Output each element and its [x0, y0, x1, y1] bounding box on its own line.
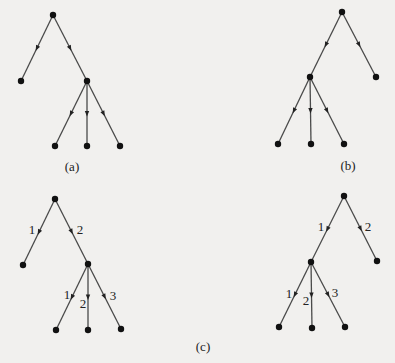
- caption-a: (a): [65, 160, 79, 173]
- arrow-icon: [324, 226, 330, 233]
- arrow-icon: [68, 228, 74, 235]
- arrow-icon: [356, 41, 362, 48]
- tree-node: [342, 324, 348, 330]
- arrow-icon: [308, 108, 312, 114]
- arrow-icon: [325, 291, 331, 298]
- tree-c-left: [20, 196, 124, 333]
- arrow-icon: [34, 45, 40, 52]
- tree-graphics: [0, 0, 395, 363]
- tree-node: [20, 262, 26, 268]
- tree-node: [117, 143, 123, 149]
- tree-node: [84, 78, 90, 84]
- tree-a: [18, 12, 123, 149]
- edge-label: 1: [64, 288, 71, 301]
- edge-label: 1: [29, 223, 36, 236]
- tree-node: [84, 143, 90, 149]
- tree-node: [85, 327, 91, 333]
- arrow-icon: [68, 110, 74, 117]
- tree-node: [52, 196, 58, 202]
- edge-label: 3: [110, 289, 117, 302]
- edge-label: 2: [77, 223, 84, 236]
- tree-node: [18, 78, 24, 84]
- tree-c-right: [276, 193, 380, 331]
- edge-label: 1: [318, 220, 325, 233]
- tree-node: [275, 141, 281, 147]
- tree-node: [341, 141, 347, 147]
- arrow-icon: [324, 107, 330, 114]
- tree-node: [52, 143, 58, 149]
- tree-node: [374, 258, 380, 264]
- arrow-icon: [292, 291, 298, 298]
- edge-label: 1: [286, 287, 293, 300]
- tree-node: [373, 74, 379, 80]
- tree-node: [118, 326, 124, 332]
- edge-label: 2: [365, 220, 372, 233]
- edge-label: 3: [332, 286, 339, 299]
- caption-b: (b): [340, 159, 355, 172]
- tree-node: [50, 12, 56, 18]
- tree-node: [276, 324, 282, 330]
- tree-node: [308, 141, 314, 147]
- arrow-icon: [86, 295, 90, 301]
- tree-b: [275, 9, 379, 147]
- edge-label: 2: [303, 294, 310, 307]
- tree-node: [53, 327, 59, 333]
- arrow-icon: [85, 111, 89, 117]
- arrow-icon: [101, 293, 107, 300]
- caption-c: (c): [196, 340, 210, 353]
- edge-label: 2: [80, 297, 87, 310]
- arrow-icon: [357, 225, 363, 232]
- tree-node: [339, 9, 345, 15]
- tree-node: [308, 259, 314, 265]
- arrow-icon: [36, 229, 42, 236]
- tree-diagram-figure: (c) (a)(b)1212312123: [0, 0, 395, 363]
- arrow-icon: [67, 45, 73, 52]
- tree-node: [307, 74, 313, 80]
- tree-node: [341, 193, 347, 199]
- tree-node: [85, 261, 91, 267]
- arrow-icon: [291, 107, 297, 114]
- tree-node: [309, 325, 315, 331]
- arrow-icon: [100, 110, 106, 117]
- arrow-icon: [309, 292, 313, 298]
- arrow-icon: [323, 41, 329, 48]
